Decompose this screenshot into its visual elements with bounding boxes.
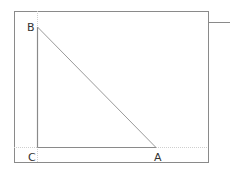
triangle-diagram: B C A: [0, 0, 230, 179]
side-ab: [38, 27, 157, 148]
vertex-label-b: B: [27, 21, 35, 34]
vertex-label-a: A: [154, 151, 162, 164]
vertex-label-c: C: [28, 151, 36, 164]
frame: [15, 12, 209, 163]
